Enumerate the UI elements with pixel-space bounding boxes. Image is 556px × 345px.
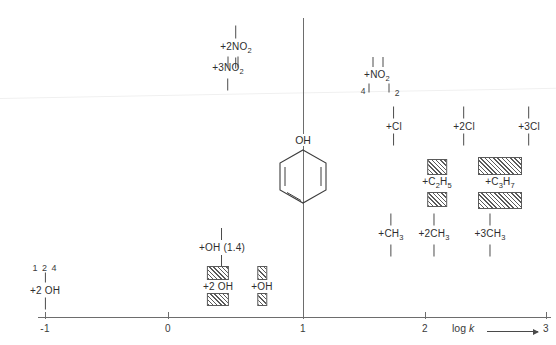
point-2ch3-lower-tick	[434, 245, 435, 257]
point-2cl-lower-tick	[464, 134, 465, 146]
point-2no2-upper-tick	[235, 26, 236, 39]
phenol-oh-label: OH	[294, 134, 312, 146]
point-no2-upper-ticks	[373, 57, 384, 67]
point-no2-lower-ticks	[369, 84, 390, 93]
point-c3h7-lower-band	[478, 192, 522, 209]
point-3cl[interactable]: +3Cl	[518, 107, 540, 146]
x-tick-2	[425, 312, 426, 319]
x-axis-arrow	[487, 331, 538, 332]
x-tick-1	[303, 312, 304, 319]
point-ch3-upper-tick	[390, 214, 391, 226]
point-2cl[interactable]: +2Cl	[453, 107, 475, 146]
point-2oh-left-topnum: 1 2 4	[32, 263, 57, 273]
point-oh-14[interactable]: +OH (1.4)	[199, 228, 245, 266]
phenol-structure: OH	[275, 136, 331, 208]
point-c2h5-upper-band	[427, 159, 447, 175]
point-no2-label: +NO2	[364, 69, 390, 84]
point-2cl-upper-tick	[464, 107, 465, 119]
point-2oh-mid-label: +2 OH	[203, 281, 233, 292]
point-c2h5[interactable]: +C2H5	[422, 159, 452, 207]
x-ticklabel-1: 1	[300, 323, 306, 334]
point-2ch3[interactable]: +2CH3	[418, 214, 449, 257]
point-2oh-mid-upper-band	[207, 266, 229, 280]
point-oh-mid-lower-band	[257, 293, 267, 306]
x-ticklabel-3: 3	[543, 323, 549, 334]
point-2oh-left-label: +2 OH	[30, 285, 60, 296]
point-oh-mid-upper-band	[257, 266, 267, 280]
point-2cl-label: +2Cl	[453, 121, 475, 132]
iodine-subscript-2: 2	[395, 88, 400, 98]
point-cl-label: +Cl	[386, 121, 402, 132]
point-cl-upper-tick	[393, 107, 394, 119]
point-c2h5-lower-band	[427, 192, 447, 207]
point-2no2-label: +2NO2	[220, 41, 252, 56]
point-cl-lower-tick	[393, 134, 394, 146]
x-tick-0	[168, 312, 169, 319]
point-3cl-lower-tick	[529, 134, 530, 146]
point-oh-14-label: +OH (1.4)	[199, 242, 245, 253]
point-3no2-lower-tick	[227, 79, 228, 91]
chart-figure: -1 0 1 2 3 log k OH +2NO2 +3NO2	[0, 0, 556, 345]
point-c3h7-label: +C3H7	[485, 176, 515, 191]
point-3ch3-upper-tick	[490, 214, 491, 226]
point-3ch3-label: +3CH3	[474, 228, 505, 243]
x-axis-title-text: log	[452, 322, 466, 334]
point-no2[interactable]: +NO2	[364, 69, 390, 84]
point-2ch3-upper-tick	[434, 214, 435, 226]
x-tick-3	[546, 312, 547, 319]
point-3no2-upper-ticks	[228, 57, 239, 68]
x-axis-line	[38, 317, 551, 318]
point-c2h5-label: +C2H5	[422, 176, 452, 191]
point-2oh-left-lower-tick	[45, 298, 46, 310]
point-oh-14-upper-tick	[221, 228, 222, 240]
point-oh-mid[interactable]: +OH	[251, 266, 272, 306]
point-3cl-label: +3Cl	[518, 121, 540, 132]
x-ticklabel-2: 2	[422, 323, 428, 334]
point-2oh-left[interactable]: 1 2 4 +2 OH	[30, 263, 60, 310]
x-ticklabel--1: -1	[40, 323, 50, 334]
point-3ch3[interactable]: +3CH3	[474, 214, 505, 257]
point-2ch3-label: +2CH3	[418, 228, 449, 243]
x-tick--1	[45, 312, 46, 319]
point-oh-14-lower-tick	[221, 255, 222, 266]
point-ch3-lower-tick	[390, 245, 391, 257]
x-ticklabel-0: 0	[165, 323, 171, 334]
iodine-count-4: 4	[361, 86, 366, 96]
point-3cl-upper-tick	[529, 107, 530, 119]
point-c3h7[interactable]: +C3H7	[478, 157, 522, 209]
point-cl[interactable]: +Cl	[386, 107, 402, 146]
point-c3h7-upper-band	[478, 157, 522, 175]
benzene-ring-icon	[275, 136, 331, 208]
point-oh-mid-label: +OH	[251, 281, 272, 292]
scan-artifact-line	[0, 88, 556, 99]
x-axis-title: log k	[452, 322, 474, 334]
point-2oh-mid-lower-band	[207, 293, 229, 306]
point-ch3-label: +CH3	[378, 228, 403, 243]
x-axis-title-symbol: k	[469, 322, 474, 334]
point-3ch3-lower-tick	[490, 245, 491, 257]
point-ch3[interactable]: +CH3	[378, 214, 403, 257]
point-2oh-left-upper-tick	[45, 273, 46, 283]
point-2oh-mid[interactable]: +2 OH	[203, 266, 233, 306]
